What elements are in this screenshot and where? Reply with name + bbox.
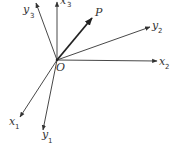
axis-y2: y 2 [57, 19, 162, 60]
axis-y1-subscript: 1 [48, 137, 52, 145]
axis-x2: x 2 [57, 55, 169, 71]
origin-label: O [56, 61, 65, 74]
origin: O [56, 59, 65, 74]
axis-x3-label: x [60, 0, 67, 7]
axis-y3: y 3 [22, 3, 57, 60]
coordinate-frames-diagram: x 3 y 3 y 2 x 2 x 1 y 1 P O [0, 0, 181, 145]
axis-y3-subscript: 3 [30, 12, 34, 20]
axis-x2-subscript: 2 [165, 63, 169, 71]
axis-y3-line [36, 3, 57, 60]
axis-x3-subscript: 3 [67, 1, 71, 9]
axis-x2-line [57, 60, 157, 61]
axis-y2-subscript: 2 [158, 27, 162, 35]
vector-p-label: P [94, 6, 103, 19]
axis-y3-label: y [22, 3, 30, 16]
axis-x1-subscript: 1 [15, 123, 19, 131]
